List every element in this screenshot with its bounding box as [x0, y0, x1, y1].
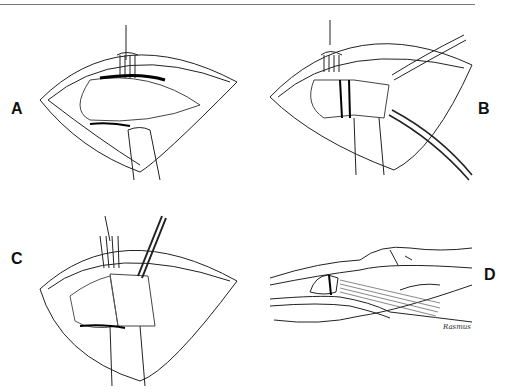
- panel-d: D Rasmus: [260, 240, 508, 392]
- panel-label-b: B: [478, 100, 490, 118]
- panel-label-a: A: [11, 100, 23, 118]
- panel-a: A: [0, 0, 254, 196]
- surgical-drawing-b: [254, 0, 508, 196]
- limb-drawing-d: [260, 240, 508, 392]
- panel-b: B: [254, 0, 508, 196]
- surgical-drawing-a: [0, 0, 254, 196]
- panel-c: C: [0, 196, 260, 392]
- panel-label-c: C: [11, 250, 23, 268]
- artist-signature: Rasmus: [443, 323, 471, 331]
- surgical-drawing-c: [0, 196, 260, 392]
- panel-label-d: D: [484, 266, 496, 284]
